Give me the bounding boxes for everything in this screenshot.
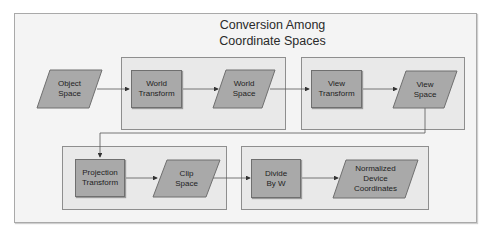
node-divide-by-w: DivideBy W (251, 159, 301, 198)
node-view-transform: ViewTransform (311, 70, 362, 108)
node-projection-transform: ProjectionTransform (75, 159, 125, 197)
node-world-space: WorldSpace (212, 69, 276, 109)
node-clip-space: ClipSpace (152, 159, 221, 198)
node-view-space: ViewSpace (392, 70, 458, 109)
node-object-space: ObjectSpace (36, 69, 103, 109)
node-normalized-device-coordinates: NormalizedDeviceCoordinates (332, 159, 419, 199)
node-world-transform: WorldTransform (131, 70, 182, 108)
